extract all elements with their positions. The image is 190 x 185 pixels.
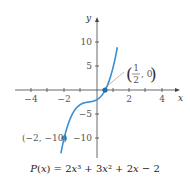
cubic-plot: −4 −2 2 4 10 5 −5 −10 x y ( 1 2 , 0 ) (−… <box>0 0 190 185</box>
y-axis-arrow-icon <box>95 17 99 22</box>
paren-close: ) <box>150 64 157 84</box>
x-tick-label: 4 <box>159 94 165 104</box>
y-axis-label: y <box>85 13 92 23</box>
root-frac-num: 1 <box>133 63 139 73</box>
root-frac-den: 2 <box>133 75 139 85</box>
x-axis-arrow-icon <box>175 88 180 92</box>
x-tick-label: −2 <box>57 94 70 104</box>
x-tick-label: −4 <box>24 94 38 104</box>
y-tick-label: −5 <box>79 109 93 119</box>
y-tick-label: −10 <box>73 133 92 143</box>
x-axis-label: x <box>178 93 183 103</box>
point-minus2-label: (−2, −10) <box>22 133 67 143</box>
leader-line <box>106 72 124 87</box>
function-caption: P(x) = 2x³ + 3x² + 2x − 2 <box>0 163 190 174</box>
x-tick-label: 2 <box>126 94 132 104</box>
paren-open: ( <box>126 64 133 84</box>
y-tick-label: 5 <box>86 61 92 71</box>
root-point <box>102 87 107 92</box>
y-tick-label: 10 <box>81 37 93 47</box>
